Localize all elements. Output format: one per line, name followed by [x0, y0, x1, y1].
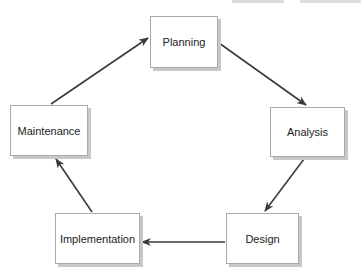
arrow-implementation-to-maintenance: [56, 159, 92, 212]
arrow-planning-to-analysis: [219, 43, 306, 105]
node-label: Analysis: [287, 126, 328, 138]
node-label: Implementation: [60, 233, 135, 245]
node-label: Planning: [163, 36, 206, 48]
node-maintenance: Maintenance: [10, 105, 88, 156]
node-implementation: Implementation: [55, 213, 140, 264]
node-planning: Planning: [150, 16, 218, 68]
node-design: Design: [226, 213, 299, 264]
node-label: Design: [245, 233, 279, 245]
arrow-analysis-to-design: [265, 159, 304, 211]
node-label: Maintenance: [18, 125, 81, 137]
node-analysis: Analysis: [270, 107, 345, 157]
arrow-maintenance-to-planning: [51, 38, 148, 104]
